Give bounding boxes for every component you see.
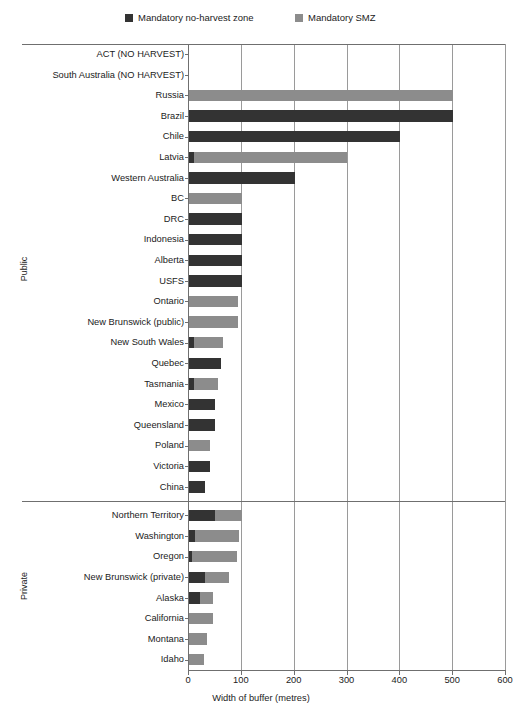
legend-smz: Mandatory SMZ — [295, 12, 376, 23]
chart-row: Northern Territory — [188, 505, 505, 526]
bar-segment-no-harvest — [189, 461, 210, 472]
chart-row: Queensland — [188, 415, 505, 436]
chart-row: Washington — [188, 526, 505, 547]
bar — [189, 572, 229, 583]
legend-label: Mandatory no-harvest zone — [138, 12, 254, 23]
chart-row: Alberta — [188, 250, 505, 271]
bar — [189, 131, 400, 142]
y-tick-label: ACT (NO HARVEST) — [97, 44, 184, 65]
bar-segment-no-harvest — [189, 481, 205, 492]
bar-segment-smz — [200, 592, 213, 603]
bar-segment-no-harvest — [189, 131, 400, 142]
bar — [189, 461, 210, 472]
bar — [189, 213, 242, 224]
bar — [189, 358, 221, 369]
bar-segment-no-harvest — [189, 172, 295, 183]
bar — [189, 296, 238, 307]
chart-row: New South Wales — [188, 332, 505, 353]
chart-row: Alaska — [188, 588, 505, 609]
bar — [189, 90, 453, 101]
bar-segment-no-harvest — [189, 234, 242, 245]
y-tick-label: California — [145, 608, 184, 629]
bar-segment-no-harvest — [189, 110, 453, 121]
y-tick-label: Victoria — [153, 456, 184, 477]
bar — [189, 440, 210, 451]
chart-row: DRC — [188, 209, 505, 230]
bar-segment-no-harvest — [189, 592, 200, 603]
bar-segment-no-harvest — [189, 572, 205, 583]
group-divider — [22, 501, 505, 502]
bar — [189, 551, 237, 562]
chart-row: Poland — [188, 435, 505, 456]
y-tick-label: Mexico — [155, 394, 184, 415]
gridline-600 — [505, 44, 506, 670]
bar — [189, 234, 242, 245]
chart-row: Victoria — [188, 456, 505, 477]
y-tick-label: Russia — [156, 85, 184, 106]
bar-segment-no-harvest — [189, 419, 215, 430]
bar — [189, 193, 242, 204]
x-tick-label-300: 300 — [339, 675, 355, 685]
bar — [189, 110, 453, 121]
bar — [189, 399, 215, 410]
bar-segment-smz — [215, 510, 241, 521]
y-tick-label: DRC — [164, 209, 184, 230]
x-tick-label-0: 0 — [185, 675, 190, 685]
legend-no-harvest: Mandatory no-harvest zone — [125, 12, 254, 23]
chart-row: Latvia — [188, 147, 505, 168]
bar — [189, 419, 215, 430]
y-tick-label: Oregon — [153, 546, 184, 567]
y-tick-label: China — [160, 477, 184, 498]
y-tick-label: Western Australia — [111, 168, 184, 189]
bar-segment-smz — [194, 337, 223, 348]
bar — [189, 530, 239, 541]
y-tick-label: Tasmania — [144, 374, 184, 395]
bar — [189, 378, 218, 389]
x-tick-label-500: 500 — [444, 675, 460, 685]
x-tick-label-100: 100 — [233, 675, 249, 685]
y-tick-label: New Brunswick (private) — [84, 567, 184, 588]
chart-row: Tasmania — [188, 374, 505, 395]
bar-segment-no-harvest — [189, 510, 215, 521]
bar-segment-smz — [189, 613, 213, 624]
bar — [189, 255, 242, 266]
bar-segment-no-harvest — [189, 275, 242, 286]
chart-legend: Mandatory no-harvest zoneMandatory SMZ — [0, 12, 522, 30]
chart-row: Ontario — [188, 291, 505, 312]
group-label-private: Private — [19, 566, 29, 606]
y-tick-label: Chile — [163, 126, 184, 147]
y-tick-label: Northern Territory — [112, 505, 184, 526]
legend-swatch-icon — [125, 14, 133, 22]
bar-segment-smz — [189, 316, 238, 327]
y-tick-label: Queensland — [134, 415, 184, 436]
bar — [189, 481, 205, 492]
y-tick-label: Montana — [148, 629, 184, 650]
bar-segment-smz — [189, 296, 238, 307]
plot-area: ACT (NO HARVEST)South Australia (NO HARV… — [188, 44, 505, 670]
bar — [189, 172, 295, 183]
y-tick-label: New South Wales — [110, 332, 184, 353]
legend-swatch-icon — [295, 14, 303, 22]
chart-row: Mexico — [188, 394, 505, 415]
chart-row: Idaho — [188, 649, 505, 670]
chart-area: ACT (NO HARVEST)South Australia (NO HARV… — [0, 38, 522, 628]
x-tick-label-600: 600 — [497, 675, 513, 685]
bar — [189, 654, 204, 665]
chart-row: Indonesia — [188, 229, 505, 250]
bar-segment-no-harvest — [189, 213, 242, 224]
bar-segment-smz — [194, 152, 347, 163]
bar — [189, 510, 242, 521]
y-tick-label: Idaho — [161, 649, 184, 670]
x-axis-title: Width of buffer (metres) — [0, 693, 522, 703]
bar-segment-smz — [189, 90, 453, 101]
y-axis-line — [188, 44, 189, 670]
y-tick-label: Ontario — [154, 291, 185, 312]
x-tick-label-400: 400 — [392, 675, 408, 685]
chart-row: China — [188, 477, 505, 498]
y-tick-label: Latvia — [159, 147, 184, 168]
y-tick-label: Quebec — [151, 353, 184, 374]
y-tick-label: Alberta — [155, 250, 184, 271]
chart-row: Montana — [188, 629, 505, 650]
chart-row: Oregon — [188, 546, 505, 567]
y-tick-label: USFS — [159, 271, 184, 292]
